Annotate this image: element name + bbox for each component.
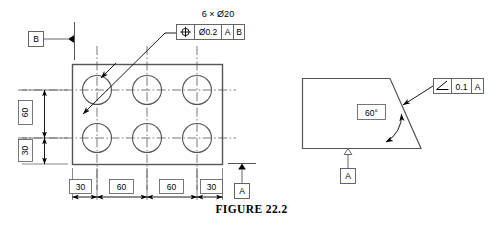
angularity-primary-datum: A xyxy=(475,82,481,92)
vertical-dimension-30: 30 xyxy=(19,138,45,164)
horizontal-dimension-30-left: 30 xyxy=(70,180,92,194)
figure-caption: FIGURE 22.2 xyxy=(0,203,503,215)
hole-leader-arrow-mid xyxy=(101,63,116,78)
horizontal-dimension-30-right: 30 xyxy=(201,180,223,194)
horizontal-dimension-60-first: 60 xyxy=(110,180,134,194)
position-secondary-datum: B xyxy=(236,27,242,37)
datum-b-label: B xyxy=(33,34,39,44)
angularity-tolerance-value: 0.1 xyxy=(456,82,468,92)
engineering-drawing-canvas: 6 × Ø20 Ø0.2 A B B xyxy=(0,0,503,229)
angle-dimension-60-label: 60° xyxy=(365,108,378,118)
horizontal-dimension-extension-lines xyxy=(73,168,223,200)
datum-a-label-right-view: A xyxy=(345,171,351,181)
angularity-feature-control-frame: 0.1 A xyxy=(434,79,484,94)
vertical-dimension-60-label: 60 xyxy=(20,108,30,118)
vertical-dimension-30-label: 30 xyxy=(20,146,30,156)
datum-a-symbol-left-view: A xyxy=(228,164,256,199)
hole-note: 6 × Ø20 xyxy=(202,9,234,19)
angularity-symbol xyxy=(437,81,449,90)
position-symbol xyxy=(180,27,190,37)
horizontal-centerlines xyxy=(18,90,236,138)
technical-drawing-figure: 6 × Ø20 Ø0.2 A B B xyxy=(0,0,503,229)
horizontal-dimension-60-second: 60 xyxy=(160,180,184,194)
vertical-dimension-60: 60 xyxy=(19,90,45,138)
position-tolerance-value: Ø0.2 xyxy=(199,27,218,37)
position-primary-datum: A xyxy=(225,27,231,37)
horizontal-dimension-30-right-label: 30 xyxy=(207,182,217,192)
plate-outline xyxy=(73,65,223,165)
angle-arc xyxy=(386,114,402,142)
datum-a-label-left-view: A xyxy=(239,186,245,196)
horizontal-dimension-60-second-label: 60 xyxy=(167,182,177,192)
horizontal-dimension-30-left-label: 30 xyxy=(76,182,86,192)
angle-dimension-60: 60° xyxy=(358,105,386,120)
datum-b-symbol: B xyxy=(29,22,75,60)
position-feature-control-frame: Ø0.2 A B xyxy=(177,25,245,40)
horizontal-dimension-60-first-label: 60 xyxy=(117,182,127,192)
datum-a-symbol-right-view: A xyxy=(341,149,356,184)
angularity-leader-line xyxy=(403,86,433,105)
hole-leader-line xyxy=(83,33,165,114)
